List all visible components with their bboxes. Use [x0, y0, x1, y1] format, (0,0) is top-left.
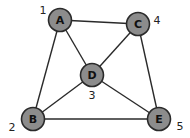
node-number: 4: [154, 14, 161, 27]
edge-a-b: [33, 20, 60, 119]
node-label: E: [155, 113, 163, 126]
graph-diagram: A1B2C4D3E5: [0, 0, 190, 138]
edge-c-e: [138, 24, 159, 119]
node-label: B: [29, 113, 37, 126]
node-c: C4: [127, 13, 161, 36]
node-label: D: [87, 69, 96, 82]
node-label: A: [56, 14, 65, 27]
node-a: A1: [40, 4, 72, 32]
node-number: 5: [177, 120, 184, 133]
node-number: 2: [9, 121, 16, 134]
nodes-group: A1B2C4D3E5: [9, 4, 184, 134]
node-b: B2: [9, 108, 45, 135]
node-e: E5: [148, 108, 184, 134]
node-number: 1: [40, 4, 47, 17]
node-d: D3: [81, 64, 104, 103]
node-label: C: [134, 18, 142, 31]
node-number: 3: [89, 89, 96, 102]
